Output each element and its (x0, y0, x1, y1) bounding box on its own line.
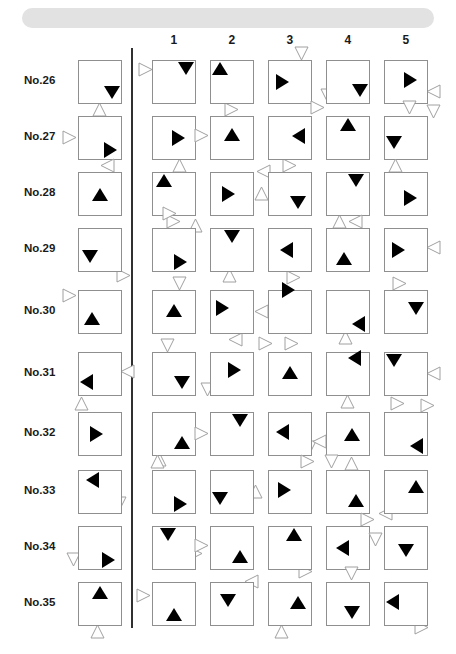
outline-triangle-right-icon (390, 396, 405, 411)
filled-triangle-right-icon (102, 552, 115, 568)
option-figure-no-29-4[interactable] (326, 228, 370, 272)
option-figure-no-34-2[interactable] (210, 526, 254, 570)
row-label-no-28: No.28 (24, 186, 84, 198)
filled-triangle-left-icon (336, 540, 349, 556)
option-figure-no-26-1[interactable] (152, 60, 196, 104)
filled-triangle-down-icon (386, 354, 402, 367)
option-figure-no-32-5[interactable] (384, 412, 428, 456)
option-figure-no-31-2[interactable] (210, 352, 254, 396)
option-figure-no-28-2[interactable] (210, 172, 254, 216)
option-figure-no-34-4[interactable] (326, 526, 370, 570)
option-figure-no-31-5[interactable] (384, 352, 428, 396)
option-figure-no-29-2[interactable] (210, 228, 254, 272)
filled-triangle-up-icon (166, 304, 182, 317)
filled-triangle-down-icon (232, 414, 248, 427)
option-figure-no-34-5[interactable] (384, 526, 428, 570)
stimulus-figure-no-27 (78, 116, 122, 160)
filled-triangle-left-icon (352, 316, 365, 332)
filled-triangle-right-icon (404, 72, 417, 88)
row-label-no-33: No.33 (24, 484, 84, 496)
row-label-no-32: No.32 (24, 426, 84, 438)
filled-triangle-down-icon (408, 302, 424, 315)
option-figure-no-33-1[interactable] (152, 470, 196, 514)
outline-triangle-right-icon (310, 100, 325, 115)
option-figure-no-32-2[interactable] (210, 412, 254, 456)
figure-square (152, 352, 196, 396)
option-figure-no-33-3[interactable] (268, 470, 312, 514)
option-figure-no-35-2[interactable] (210, 582, 254, 626)
filled-triangle-down-icon (224, 230, 240, 243)
figure-square (268, 60, 312, 104)
option-figure-no-31-1[interactable] (152, 352, 196, 396)
option-figure-no-27-1[interactable] (152, 116, 196, 160)
row-label-no-26: No.26 (24, 74, 84, 86)
stimulus-figure-no-28 (78, 172, 122, 216)
option-figure-no-31-3[interactable] (268, 352, 312, 396)
outline-triangle-up-icon (254, 186, 269, 201)
outline-triangle-left-icon (120, 364, 135, 379)
row-label-no-29: No.29 (24, 242, 84, 254)
header-banner (22, 8, 434, 28)
option-figure-no-34-1[interactable] (152, 526, 196, 570)
option-figure-no-27-5[interactable] (384, 116, 428, 160)
option-figure-no-35-4[interactable] (326, 582, 370, 626)
option-figure-no-33-2[interactable] (210, 470, 254, 514)
test-sheet: 12345 No.26No.27No.28No.29No.30No.31No.3… (0, 0, 456, 654)
outline-triangle-right-icon (62, 130, 77, 145)
outline-triangle-left-icon (100, 158, 115, 173)
outline-triangle-right-icon (62, 288, 77, 303)
option-figure-no-35-1[interactable] (152, 582, 196, 626)
outline-triangle-left-icon (426, 240, 441, 255)
filled-triangle-right-icon (216, 300, 229, 316)
filled-triangle-left-icon (80, 374, 93, 390)
option-figure-no-28-4[interactable] (326, 172, 370, 216)
option-figure-no-35-5[interactable] (384, 582, 428, 626)
option-figure-no-30-2[interactable] (210, 290, 254, 334)
filled-triangle-down-icon (104, 86, 120, 99)
filled-triangle-right-icon (278, 482, 291, 498)
option-figure-no-27-4[interactable] (326, 116, 370, 160)
filled-triangle-up-icon (156, 174, 172, 187)
stimulus-figure-no-29 (78, 228, 122, 272)
stimulus-figure-no-34 (78, 526, 122, 570)
option-figure-no-28-5[interactable] (384, 172, 428, 216)
filled-triangle-left-icon (276, 424, 289, 440)
option-figure-no-26-3[interactable] (268, 60, 312, 104)
option-figure-no-27-2[interactable] (210, 116, 254, 160)
outline-triangle-up-icon (74, 396, 89, 411)
column-header-4: 4 (328, 33, 368, 47)
option-figure-no-32-3[interactable] (268, 412, 312, 456)
stimulus-figure-no-31 (78, 352, 122, 396)
option-figure-no-34-3[interactable] (268, 526, 312, 570)
option-figure-no-32-4[interactable] (326, 412, 370, 456)
filled-triangle-left-icon (386, 594, 399, 610)
option-figure-no-32-1[interactable] (152, 412, 196, 456)
outline-triangle-right-icon (282, 158, 297, 173)
option-figure-no-29-5[interactable] (384, 228, 428, 272)
option-figure-no-26-5[interactable] (384, 60, 428, 104)
option-figure-no-26-2[interactable] (210, 60, 254, 104)
outline-triangle-down-icon (344, 566, 359, 581)
option-figure-no-30-3[interactable] (268, 290, 312, 334)
option-figure-no-29-1[interactable] (152, 228, 196, 272)
option-figure-no-35-3[interactable] (268, 582, 312, 626)
option-figure-no-30-4[interactable] (326, 290, 370, 334)
filled-triangle-up-icon (92, 188, 108, 201)
option-figure-no-30-5[interactable] (384, 290, 428, 334)
option-figure-no-27-3[interactable] (268, 116, 312, 160)
filled-triangle-right-icon (228, 362, 241, 378)
figure-square (326, 470, 370, 514)
option-figure-no-33-4[interactable] (326, 470, 370, 514)
option-figure-no-28-3[interactable] (268, 172, 312, 216)
filled-triangle-right-icon (174, 254, 187, 270)
option-figure-no-30-1[interactable] (152, 290, 196, 334)
option-figure-no-33-5[interactable] (384, 470, 428, 514)
option-figure-no-31-4[interactable] (326, 352, 370, 396)
filled-triangle-right-icon (276, 74, 289, 90)
figure-square (78, 470, 122, 514)
option-figure-no-29-3[interactable] (268, 228, 312, 272)
outline-triangle-up-icon (92, 102, 107, 117)
filled-triangle-down-icon (160, 528, 176, 541)
filled-triangle-down-icon (348, 174, 364, 187)
option-figure-no-26-4[interactable] (326, 60, 370, 104)
